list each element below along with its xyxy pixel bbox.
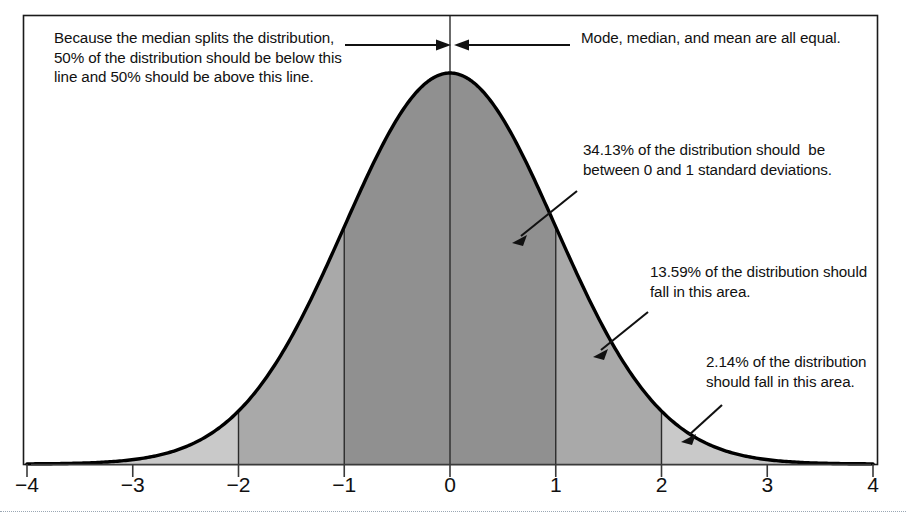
annotation-2-14-percent: 2.14% of the distribution should fall in…: [706, 352, 886, 391]
page-bottom-rule: [0, 511, 906, 514]
annotation-34-13-percent: 34.13% of the distribution should be bet…: [583, 140, 873, 179]
x-axis-tick-label: 1: [536, 473, 576, 497]
x-axis-tick-label: 2: [642, 473, 682, 497]
x-axis-tick-label: −2: [219, 473, 259, 497]
x-axis-tick-label: −1: [324, 473, 364, 497]
annotation-median-split: Because the median splits the distributi…: [54, 28, 354, 87]
x-axis-tick-label: −4: [7, 473, 47, 497]
annotation-mode-median-mean: Mode, median, and mean are all equal.: [581, 28, 861, 48]
normal-distribution-figure: Because the median splits the distributi…: [0, 0, 906, 516]
x-axis-tick-label: 4: [853, 473, 893, 497]
x-axis-tick-label: 0: [430, 473, 470, 497]
x-axis-tick-label: −3: [113, 473, 153, 497]
annotation-13-59-percent: 13.59% of the distribution should fall i…: [650, 262, 870, 301]
x-axis-tick-label: 3: [747, 473, 787, 497]
